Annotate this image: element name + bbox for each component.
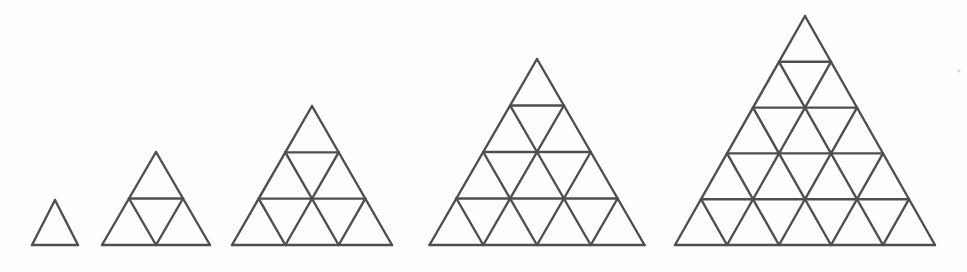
triangle-1-left-diagonal-0 xyxy=(32,200,55,245)
triangle-2 xyxy=(102,152,210,245)
triangle-5-right-diagonal-4 xyxy=(701,199,727,245)
triangle-3-right-diagonal-2 xyxy=(259,199,286,245)
triangle-5 xyxy=(675,16,935,245)
triangle-2-right-diagonal-1 xyxy=(129,199,156,246)
triangle-3-left-diagonal-2 xyxy=(339,199,366,245)
triangle-1 xyxy=(32,200,78,245)
triangles-group xyxy=(32,16,935,245)
scan-speck-0 xyxy=(957,69,960,72)
triangle-4-right-diagonal-3 xyxy=(456,199,483,246)
triangle-sequence-diagram xyxy=(0,0,967,272)
triangle-1-right-diagonal-0 xyxy=(55,200,78,245)
triangle-5-left-diagonal-0 xyxy=(675,16,805,245)
figure-canvas xyxy=(0,0,967,272)
image-specks xyxy=(957,69,960,72)
triangle-2-left-diagonal-1 xyxy=(156,199,183,246)
triangle-4 xyxy=(430,59,645,245)
triangle-3 xyxy=(232,106,392,245)
triangle-5-right-diagonal-0 xyxy=(805,16,935,245)
triangle-4-left-diagonal-3 xyxy=(591,199,618,246)
triangle-5-left-diagonal-4 xyxy=(883,199,909,245)
